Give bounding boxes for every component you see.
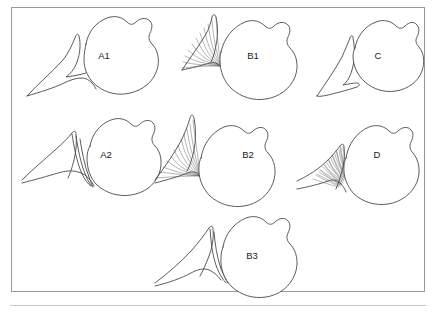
c-body-outline [353, 21, 424, 92]
a2-body-outline [87, 119, 161, 196]
panel-c: C [317, 21, 424, 97]
b3-attachment-upper [155, 226, 213, 283]
b2-attachment-upper [155, 115, 196, 180]
panel-label-b1: B1 [247, 50, 259, 61]
a2-attachment-upper [22, 131, 76, 180]
b1-fiber-fan [182, 18, 221, 68]
panel-label-a2: A2 [100, 149, 112, 160]
a2-attachment-lower [22, 171, 94, 186]
a1-attachment-outline [27, 34, 86, 96]
b3-body-outline [221, 217, 297, 298]
panel-label-a1: A1 [98, 50, 110, 61]
panel-b1: B1 [182, 15, 297, 100]
figure-root: A1 B1 C [0, 0, 436, 312]
panel-label-b3: B3 [246, 250, 258, 261]
panel-a1: A1 [27, 17, 158, 96]
panel-d: D [297, 126, 419, 205]
d-body-outline [344, 126, 419, 205]
panel-label-c: C [375, 50, 382, 61]
b3-attachment-lower [155, 269, 221, 286]
figure-canvas: A1 B1 C [0, 0, 436, 312]
panel-label-b2: B2 [242, 149, 254, 160]
panel-label-d: D [374, 149, 381, 160]
a1-body-outline [84, 17, 158, 95]
d-fiber-dense-hatch [313, 146, 347, 187]
panel-b3: B3 [155, 217, 297, 298]
c-detached-structure [317, 36, 359, 97]
panel-a2: A2 [22, 119, 161, 196]
a1-attachment-lower [27, 78, 96, 96]
b2-body-outline [199, 126, 275, 207]
panel-b2: B2 [155, 115, 275, 207]
